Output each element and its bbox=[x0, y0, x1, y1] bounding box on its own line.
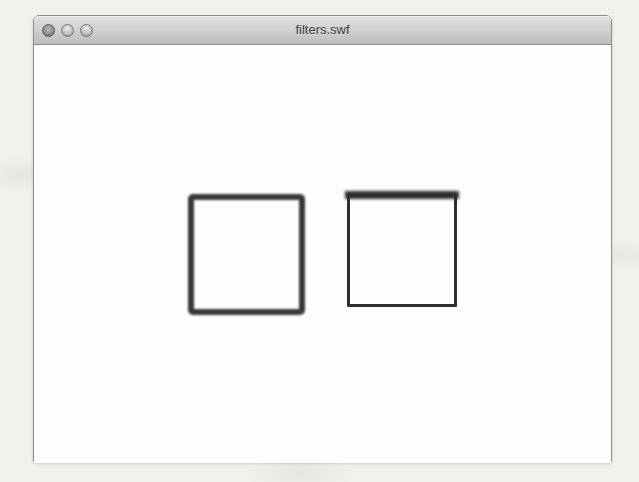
square-top-blur-outline bbox=[347, 194, 457, 307]
square-uniform-blur bbox=[188, 194, 305, 315]
swf-stage bbox=[34, 45, 611, 463]
square-top-blur bbox=[347, 194, 457, 307]
minimize-button[interactable] bbox=[61, 24, 74, 37]
scan-background: filters.swf bbox=[0, 0, 639, 482]
window-titlebar[interactable]: filters.swf bbox=[34, 16, 611, 45]
square-top-blur-blurred-top-edge bbox=[345, 191, 459, 199]
window-controls bbox=[42, 16, 93, 44]
window-title: filters.swf bbox=[94, 16, 551, 44]
zoom-button[interactable] bbox=[80, 24, 93, 37]
close-button[interactable] bbox=[42, 24, 55, 37]
flash-player-window: filters.swf bbox=[33, 15, 612, 462]
square-uniform-blur-outline bbox=[188, 194, 305, 315]
